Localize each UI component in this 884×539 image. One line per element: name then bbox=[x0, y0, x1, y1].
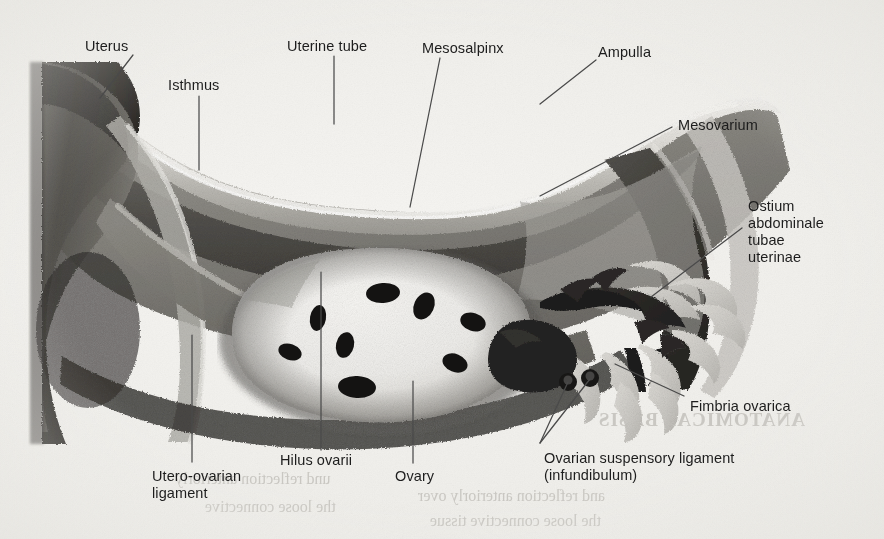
label-uterine-tube: Uterine tube bbox=[287, 38, 367, 55]
label-ovarian-susp-lig: Ovarian suspensory ligament(infundibulum… bbox=[544, 450, 735, 484]
label-fimbria-ovarica: Fimbria ovarica bbox=[690, 398, 791, 415]
label-isthmus: Isthmus bbox=[168, 77, 219, 94]
label-line: Utero-ovarian bbox=[152, 468, 241, 485]
label-line: Isthmus bbox=[168, 77, 219, 94]
label-line: tubae bbox=[748, 232, 824, 249]
label-utero-ovarian-lig: Utero-ovarianligament bbox=[152, 468, 241, 502]
label-line: abdominale bbox=[748, 215, 824, 232]
label-ampulla: Ampulla bbox=[598, 44, 651, 61]
label-line: Hilus ovarii bbox=[280, 452, 352, 469]
label-hilus-ovarii: Hilus ovarii bbox=[280, 452, 352, 469]
label-line: Mesosalpinx bbox=[422, 40, 504, 57]
label-line: Fimbria ovarica bbox=[690, 398, 791, 415]
label-line: Ovary bbox=[395, 468, 434, 485]
label-mesovarium: Mesovarium bbox=[678, 117, 758, 134]
label-line: Uterus bbox=[85, 38, 128, 55]
label-line: ligament bbox=[152, 485, 241, 502]
label-line: (infundibulum) bbox=[544, 467, 735, 484]
label-line: Uterine tube bbox=[287, 38, 367, 55]
label-line: uterinae bbox=[748, 249, 824, 266]
illustration-vignette bbox=[0, 0, 884, 539]
label-line: Ovarian suspensory ligament bbox=[544, 450, 735, 467]
label-line: Mesovarium bbox=[678, 117, 758, 134]
label-ostium-abdominale: Ostiumabdominaletubaeuterinae bbox=[748, 198, 824, 266]
label-uterus: Uterus bbox=[85, 38, 128, 55]
figure-page: ANATOMICAL BASIS and reflection anterior… bbox=[0, 0, 884, 539]
label-line: Ampulla bbox=[598, 44, 651, 61]
label-mesosalpinx: Mesosalpinx bbox=[422, 40, 504, 57]
anatomical-illustration bbox=[0, 0, 884, 539]
label-ovary: Ovary bbox=[395, 468, 434, 485]
label-line: Ostium bbox=[748, 198, 824, 215]
